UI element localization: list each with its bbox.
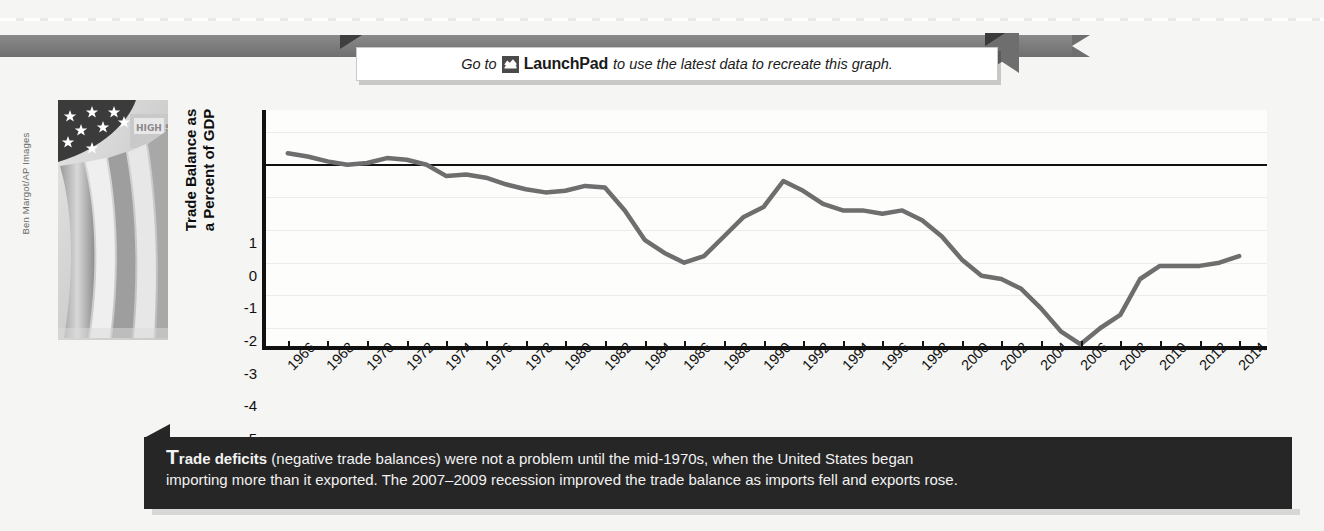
launchpad-brand: LaunchPad <box>524 55 608 73</box>
y-axis-tick-label: 0 <box>217 266 257 283</box>
caption-lead-bold: rade deficits <box>179 450 267 467</box>
launchpad-callout[interactable]: Go to LaunchPad to use the latest data t… <box>356 47 998 81</box>
y-axis-tick-label: 1 <box>217 234 257 251</box>
caption-dropcap: T <box>166 445 179 468</box>
x-axis-tick <box>1120 341 1122 350</box>
x-axis-tick <box>1041 341 1043 350</box>
x-axis-tick <box>1001 341 1003 350</box>
x-axis-tick <box>724 341 726 350</box>
x-axis-tick <box>486 341 488 350</box>
y-axis-title-line2: a Percent of GDP <box>200 109 218 232</box>
x-axis-tick <box>645 341 647 350</box>
x-axis-tick <box>327 341 329 350</box>
x-axis-tick <box>367 341 369 350</box>
caption-notch <box>144 424 170 438</box>
y-axis-tick-label: -4 <box>217 397 257 414</box>
figure-caption: Trade deficits (negative trade balances)… <box>144 437 1292 509</box>
trade-balance-line <box>262 110 1267 350</box>
trade-balance-chart: 10-1-2-3-4-5 196619681970197219741976197… <box>262 110 1267 350</box>
figure-page: Go to LaunchPad to use the latest data t… <box>0 0 1324 531</box>
y-axis-title-line1: Trade Balance as <box>182 109 200 232</box>
launchpad-callout-text: Go to LaunchPad to use the latest data t… <box>461 55 893 73</box>
x-axis-tick <box>922 341 924 350</box>
launchpad-icon <box>502 56 519 73</box>
launchpad-suffix: to use the latest data to recreate this … <box>613 56 893 72</box>
photo-credit: Ben Margot/AP Images <box>20 99 31 269</box>
x-axis-tick <box>764 341 766 350</box>
ribbon-fold-right-dark <box>985 33 1005 46</box>
y-axis-tick-label: -3 <box>217 364 257 381</box>
x-axis-tick <box>1160 341 1162 350</box>
x-axis-tick <box>803 341 805 350</box>
x-axis-tick <box>684 341 686 350</box>
plot-area <box>262 110 1267 350</box>
x-axis-tick <box>526 341 528 350</box>
launchpad-prefix: Go to <box>461 56 496 72</box>
american-flag-photo: HIGH ST <box>58 100 168 340</box>
caption-line1: (negative trade balances) were not a pro… <box>267 450 913 467</box>
svg-text:HIGH ST: HIGH ST <box>136 123 168 133</box>
x-axis-tick <box>446 341 448 350</box>
x-axis-tick <box>565 341 567 350</box>
x-axis-tick <box>1081 341 1083 350</box>
x-axis-tick <box>605 341 607 350</box>
x-axis-tick <box>843 341 845 350</box>
x-axis-tick <box>1239 341 1241 350</box>
data-line <box>288 153 1239 344</box>
y-axis-tick-label: -1 <box>217 299 257 316</box>
top-dashed-divider <box>0 18 1324 21</box>
caption-line2: importing more than it exported. The 200… <box>166 470 1272 491</box>
x-axis-tick <box>882 341 884 350</box>
x-axis-tick <box>1200 341 1202 350</box>
x-axis-tick <box>407 341 409 350</box>
y-axis-title: Trade Balance as a Percent of GDP <box>180 75 220 265</box>
x-axis-tick <box>962 341 964 350</box>
caption-shadow <box>152 509 1300 515</box>
y-axis-tick-label: -2 <box>217 332 257 349</box>
x-axis-tick <box>288 341 290 350</box>
